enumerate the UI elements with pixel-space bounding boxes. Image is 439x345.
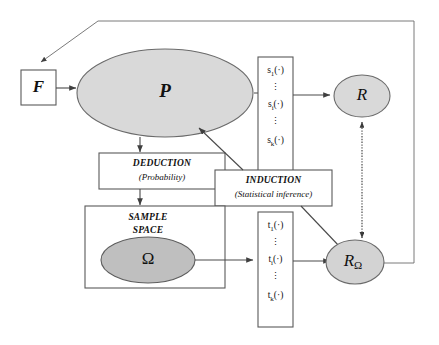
node-sample-space-box: SAMPLE SPACE Ω (85, 206, 225, 288)
diagram-svg: F P s1(·) ⋮ si(·) ⋮ (0, 0, 439, 345)
node-p-ellipse: P (77, 49, 253, 137)
node-s-column-box: s1(·) ⋮ si(·) ⋮ sk(·) (258, 57, 293, 172)
sample-space-line2: SPACE (133, 225, 163, 235)
node-r-omega-ellipse: RΩ (326, 240, 384, 284)
t-dots-1: ⋮ (271, 237, 280, 247)
deduction-title: DEDUCTION (132, 158, 192, 168)
node-deduction-box: DEDUCTION (Probability) (99, 153, 225, 189)
node-f-box: F (21, 70, 56, 105)
s-dots-1: ⋮ (271, 82, 280, 92)
diagram-canvas: F P s1(·) ⋮ si(·) ⋮ (0, 0, 439, 345)
node-induction-box: INDUCTION (Statistical inference) (215, 170, 332, 206)
sample-space-line1: SAMPLE (128, 212, 167, 222)
f-label: F (32, 77, 45, 96)
induction-subtitle: (Statistical inference) (235, 189, 312, 199)
deduction-subtitle: (Probability) (139, 172, 186, 182)
omega-label: Ω (142, 249, 155, 268)
s-dots-2: ⋮ (271, 116, 280, 126)
node-r-ellipse: R (334, 75, 390, 117)
induction-title: INDUCTION (245, 175, 303, 185)
r-label: R (356, 85, 368, 104)
node-t-column-box: t1(·) ⋮ ti(·) ⋮ tk(·) (258, 212, 293, 327)
edge-induction-to-r-omega (301, 206, 340, 247)
t-dots-2: ⋮ (271, 271, 280, 281)
p-label: P (158, 80, 171, 101)
